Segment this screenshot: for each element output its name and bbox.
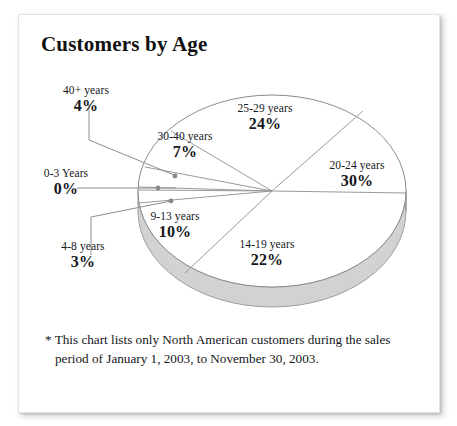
slice-value-40-plus: 4% <box>31 98 141 115</box>
slice-label-4-8: 4-8 years 3% <box>33 241 133 271</box>
slice-category-4-8: 4-8 years <box>33 241 133 253</box>
slice-value-9-13: 10% <box>125 224 225 241</box>
chart-footnote: * This chart lists only North American c… <box>45 331 427 368</box>
slice-category-40-plus: 40+ years <box>31 85 141 97</box>
slice-value-0-3: 0% <box>18 181 115 198</box>
slice-category-14-19: 14-19 years <box>215 239 319 251</box>
slice-label-9-13: 9-13 years 10% <box>125 211 225 241</box>
slice-value-14-19: 22% <box>215 252 319 269</box>
chart-card: Customers by Age <box>18 14 440 413</box>
slice-category-20-24: 20-24 years <box>305 160 409 172</box>
slice-value-30-40: 7% <box>135 144 235 161</box>
slice-value-4-8: 3% <box>33 254 133 271</box>
slice-category-30-40: 30-40 years <box>135 131 235 143</box>
slice-category-25-29: 25-29 years <box>213 103 317 115</box>
slice-label-14-19: 14-19 years 22% <box>215 239 319 269</box>
slice-label-20-24: 20-24 years 30% <box>305 160 409 190</box>
slice-category-0-3: 0-3 Years <box>18 168 115 180</box>
slice-label-30-40: 30-40 years 7% <box>135 131 235 161</box>
slice-value-20-24: 30% <box>305 173 409 190</box>
slice-value-25-29: 24% <box>213 116 317 133</box>
slice-label-40-plus: 40+ years 4% <box>31 85 141 115</box>
slice-label-25-29: 25-29 years 24% <box>213 103 317 133</box>
slice-label-0-3: 0-3 Years 0% <box>18 168 115 198</box>
slice-category-9-13: 9-13 years <box>125 211 225 223</box>
